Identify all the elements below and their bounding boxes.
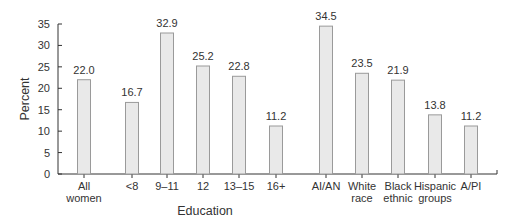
- bar: [161, 33, 174, 174]
- bar: [197, 66, 210, 174]
- y-tick-label: 30: [38, 39, 50, 51]
- y-tick-label: 20: [38, 82, 50, 94]
- bar: [465, 126, 478, 174]
- bar: [78, 80, 91, 174]
- bar: [320, 26, 333, 174]
- x-tick-label: Black: [385, 180, 412, 192]
- bar-group: 34.5: [315, 10, 336, 174]
- x-axis-title: Education: [177, 204, 233, 218]
- y-axis: 05101520253035: [38, 18, 62, 180]
- value-label: 21.9: [387, 64, 408, 76]
- bar: [126, 102, 139, 174]
- value-label: 13.8: [424, 99, 445, 111]
- y-tick-label: 10: [38, 125, 50, 137]
- value-label: 22.8: [228, 60, 249, 72]
- value-label: 11.2: [266, 110, 287, 122]
- x-tick-label: 13–15: [224, 180, 255, 192]
- y-tick-label: 25: [38, 61, 50, 73]
- x-tick-label: 16+: [267, 180, 286, 192]
- value-label: 34.5: [315, 10, 336, 22]
- x-tick-label: <8: [126, 180, 139, 192]
- x-tick-label: A/PI: [461, 180, 482, 192]
- x-tick-label: Hispanic: [414, 180, 457, 192]
- bar-group: 13.8: [424, 99, 445, 174]
- x-tick-label: 9–11: [155, 180, 179, 192]
- x-tick-label: White: [348, 180, 376, 192]
- x-tick-label: ethnic: [383, 192, 413, 204]
- bar-group: 23.5: [351, 57, 372, 174]
- x-tick-label: All: [78, 180, 90, 192]
- bar: [233, 76, 246, 174]
- value-label: 23.5: [351, 57, 372, 69]
- bar-group: 22.8: [228, 60, 249, 174]
- bar: [270, 126, 283, 174]
- bar-group: 11.2: [461, 110, 482, 174]
- x-tick-label: 12: [197, 180, 209, 192]
- bar-group: 22.0: [73, 64, 94, 174]
- bar-group: 16.7: [121, 86, 142, 174]
- y-tick-label: 0: [44, 168, 50, 180]
- x-tick-label: women: [65, 192, 101, 204]
- x-tick-label: groups: [418, 192, 452, 204]
- value-label: 22.0: [73, 64, 94, 76]
- bar-group: 21.9: [387, 64, 408, 174]
- bars: 22.016.732.925.222.811.234.523.521.913.8…: [73, 10, 481, 174]
- value-label: 25.2: [192, 50, 213, 62]
- x-tick-label: AI/AN: [312, 180, 341, 192]
- y-tick-label: 15: [38, 104, 50, 116]
- bar: [392, 80, 405, 174]
- bar: [356, 73, 369, 174]
- y-tick-label: 5: [44, 147, 50, 159]
- value-label: 32.9: [156, 17, 177, 29]
- y-tick-label: 35: [38, 18, 50, 30]
- x-tick-label: race: [351, 192, 372, 204]
- x-axis: Allwomen<89–111213–1516+AI/ANWhiteraceBl…: [58, 170, 497, 204]
- bar-group: 25.2: [192, 50, 213, 174]
- bar-chart: 05101520253035 Allwomen<89–111213–1516+A…: [0, 0, 516, 224]
- value-label: 11.2: [461, 110, 482, 122]
- value-label: 16.7: [121, 86, 142, 98]
- bar-group: 32.9: [156, 17, 177, 174]
- bar: [429, 115, 442, 174]
- y-axis-title: Percent: [18, 77, 32, 121]
- bar-group: 11.2: [266, 110, 287, 174]
